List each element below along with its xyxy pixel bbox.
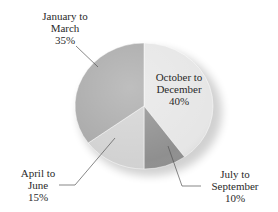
label-jul-sep-line2: September — [200, 180, 270, 192]
label-oct-dec-line2: December — [146, 83, 212, 95]
label-jan-mar-line1: January to — [30, 10, 100, 22]
leader-line-jan-mar — [76, 46, 98, 67]
label-jul-sep-pct: 10% — [200, 192, 270, 204]
label-apr-jun-line2: June — [16, 179, 60, 191]
label-jan-mar-line2: March — [30, 22, 100, 34]
label-jan-mar-pct: 35% — [30, 34, 100, 46]
label-jul-sep-line1: July to — [200, 168, 270, 180]
label-apr-jun: April to June 15% — [16, 167, 60, 203]
label-apr-jun-line1: April to — [16, 167, 60, 179]
label-jan-mar: January to March 35% — [30, 10, 100, 46]
label-oct-dec-line1: October to — [146, 71, 212, 83]
label-apr-jun-pct: 15% — [16, 191, 60, 203]
label-oct-dec: October to December 40% — [146, 71, 212, 107]
label-oct-dec-pct: 40% — [146, 95, 212, 107]
label-jul-sep: July to September 10% — [200, 168, 270, 204]
